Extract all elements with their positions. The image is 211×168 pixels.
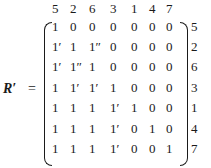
matrix-label: R′	[3, 81, 16, 97]
matrix-cell: 1	[110, 81, 117, 95]
matrix-cell: 0	[89, 20, 96, 34]
matrix-cell: 1	[89, 101, 96, 115]
column-header: 6	[89, 2, 96, 16]
matrix-cell: 0	[149, 40, 156, 54]
matrix-cell: 1′	[52, 60, 61, 74]
matrix-cell: 0	[166, 81, 173, 95]
matrix-cell: 0	[131, 40, 138, 54]
matrix-cell: 0	[149, 101, 156, 115]
column-header: 3	[110, 2, 117, 16]
matrix-cell: 1	[52, 81, 59, 95]
row-label: 4	[191, 122, 198, 136]
matrix-cell: 0	[110, 40, 117, 54]
matrix-cell: 1	[89, 60, 96, 74]
matrix-cell: 0	[110, 20, 117, 34]
matrix-cell: 0	[166, 101, 173, 115]
row-label: 3	[191, 81, 198, 95]
matrix-cell: 1	[52, 101, 59, 115]
matrix-cell: 0	[166, 20, 173, 34]
matrix-cell: 1′	[110, 142, 119, 156]
matrix-cell: 1	[70, 40, 77, 54]
row-label: 5	[191, 20, 198, 34]
matrix-cell: 1	[131, 101, 138, 115]
matrix-cell: 0	[166, 40, 173, 54]
matrix-cell: 0	[149, 142, 156, 156]
column-header: 1	[131, 2, 138, 16]
matrix-cell: 1′	[52, 40, 61, 54]
matrix-cell: 1	[166, 142, 173, 156]
matrix-cell: 0	[70, 20, 77, 34]
column-header: 5	[52, 2, 59, 16]
matrix-cell: 0	[166, 122, 173, 136]
column-header: 4	[149, 2, 156, 16]
matrix-cell: 0	[131, 81, 138, 95]
row-label: 6	[191, 60, 198, 74]
matrix-cell: 0	[131, 60, 138, 74]
matrix-cell: 1	[52, 142, 59, 156]
row-label: 7	[191, 142, 198, 156]
matrix-cell: 1	[89, 142, 96, 156]
matrix-cell: 0	[149, 60, 156, 74]
matrix-cell: 0	[131, 142, 138, 156]
matrix-cell: 1	[70, 122, 77, 136]
matrix-cell: 0	[149, 20, 156, 34]
column-header: 7	[166, 2, 173, 16]
matrix-cell: 1′	[70, 81, 79, 95]
matrix-cell: 1	[52, 20, 59, 34]
matrix-cell: 0	[149, 81, 156, 95]
row-label: 2	[191, 40, 198, 54]
matrix-cell: 1	[52, 122, 59, 136]
matrix-cell: 1′	[110, 101, 119, 115]
equals-sign: =	[28, 81, 36, 97]
matrix-cell: 1″	[89, 40, 101, 54]
matrix-cell: 1′	[89, 81, 98, 95]
matrix-cell: 1′	[110, 122, 119, 136]
matrix-cell: 0	[131, 20, 138, 34]
matrix-cell: 1	[70, 142, 77, 156]
matrix-cell: 1	[89, 122, 96, 136]
matrix-cell: 1	[70, 101, 77, 115]
left-parenthesis	[44, 22, 52, 166]
matrix-cell: 0	[110, 60, 117, 74]
right-parenthesis	[180, 22, 188, 166]
matrix-cell: 0	[131, 122, 138, 136]
matrix-cell: 0	[166, 60, 173, 74]
column-header: 2	[70, 2, 77, 16]
matrix-cell: 1	[149, 122, 156, 136]
matrix-cell: 1″	[70, 60, 82, 74]
row-label: 1	[191, 101, 198, 115]
